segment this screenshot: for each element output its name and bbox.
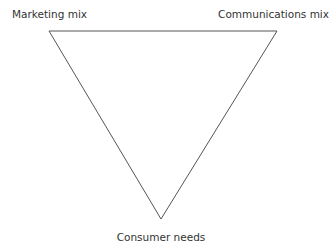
- triangle-diagram: [0, 0, 335, 252]
- triangle-shape: [49, 31, 277, 219]
- vertex-label-marketing-mix: Marketing mix: [12, 8, 87, 20]
- vertex-label-consumer-needs: Consumer needs: [0, 231, 322, 243]
- vertex-label-communications-mix: Communications mix: [218, 8, 329, 20]
